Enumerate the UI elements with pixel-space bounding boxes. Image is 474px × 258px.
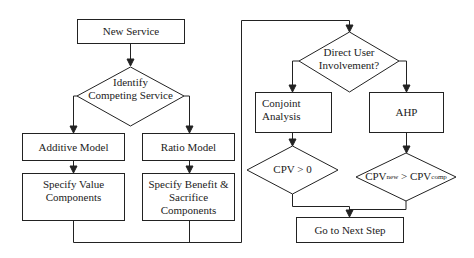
specify-benefit-line1: Specify Benefit &	[148, 178, 228, 191]
direct-user-line1: Direct User	[323, 46, 374, 59]
additive-model-label: Additive Model	[22, 133, 125, 161]
specify-value-line1: Specify Value	[43, 178, 104, 191]
ratio-model-label: Ratio Model	[142, 133, 235, 161]
conjoint-line2: Analysis	[262, 110, 301, 123]
direct-user-label: Direct User Involvement?	[299, 46, 399, 72]
next-step-label: Go to Next Step	[296, 217, 404, 243]
specify-value-label: Specify Value Components	[22, 178, 125, 204]
new-service-label: New Service	[77, 19, 185, 44]
specify-value-line2: Components	[46, 191, 102, 204]
direct-user-line2: Involvement?	[319, 59, 379, 72]
conjoint-label: Conjoint Analysis	[262, 97, 322, 123]
ahp-label: AHP	[369, 92, 444, 133]
specify-benefit-line2: Sacrifice	[169, 191, 208, 204]
identify-label: Identify Competing Service	[77, 76, 184, 102]
conjoint-line1: Conjoint	[262, 97, 301, 110]
specify-benefit-line3: Components	[161, 204, 217, 217]
cpv-zero-label: CPV > 0	[247, 163, 338, 176]
specify-benefit-label: Specify Benefit & Sacrifice Components	[142, 178, 235, 217]
cpv-compare-label: CPVnew > CPVcomp	[356, 170, 456, 183]
cpv-main-2: > CPV	[398, 170, 431, 183]
identify-label-line1: Identify	[113, 76, 148, 89]
cpv-main-1: CPV	[365, 170, 386, 183]
identify-label-line2: Competing Service	[88, 89, 173, 102]
